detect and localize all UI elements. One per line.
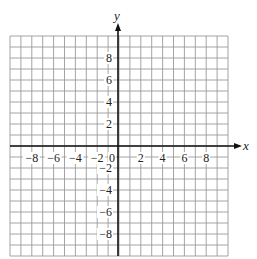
x-tick-label: 6 [181, 151, 187, 165]
x-tick-label: −8 [25, 151, 38, 165]
y-tick-label: −4 [99, 183, 112, 197]
x-axis-label: x [242, 138, 249, 153]
y-tick-label: 8 [106, 51, 112, 65]
y-tick-label: −8 [99, 227, 112, 241]
x-axis-arrow-icon [234, 143, 242, 149]
y-axis-label: y [112, 8, 120, 23]
x-tick-label: 4 [160, 151, 166, 165]
coordinate-plane: −8−6−4−202468−8−6−4−22468 x y [0, 0, 257, 259]
y-tick-label: −6 [99, 205, 112, 219]
y-tick-label: 6 [106, 73, 112, 87]
y-tick-label: 2 [106, 117, 112, 131]
y-tick-label: −2 [99, 161, 112, 175]
x-tick-label: 8 [203, 151, 209, 165]
y-tick-label: 4 [106, 95, 112, 109]
x-tick-label: −4 [69, 151, 82, 165]
y-axis-arrow-icon [115, 23, 121, 31]
x-tick-label: −6 [47, 151, 60, 165]
x-tick-label: 2 [138, 151, 144, 165]
